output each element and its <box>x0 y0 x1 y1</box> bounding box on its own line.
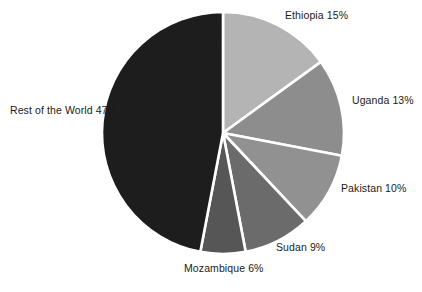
slice-label-uganda: Uganda 13% <box>352 94 414 106</box>
pie-slice-group <box>102 12 344 254</box>
slice-label-pakistan: Pakistan 10% <box>341 182 406 194</box>
slice-label-ethiopia: Ethiopia 15% <box>285 9 348 21</box>
pie-chart-canvas <box>0 0 422 292</box>
pie-chart-figure: Ethiopia 15% Uganda 13% Pakistan 10% Sud… <box>0 0 422 292</box>
pie-slice-rest-of-the-world <box>102 12 223 252</box>
slice-label-sudan: Sudan 9% <box>276 241 325 253</box>
slice-label-rest-of-the-world: Rest of the World 47% <box>10 104 117 116</box>
slice-label-mozambique: Mozambique 6% <box>184 262 264 274</box>
